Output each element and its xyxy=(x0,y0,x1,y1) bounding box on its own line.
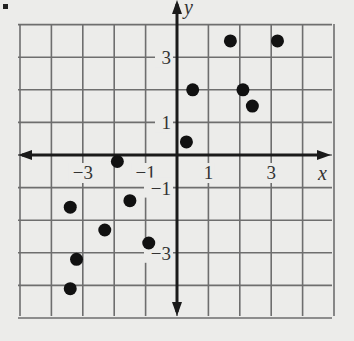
data-point xyxy=(271,34,284,47)
y-axis-label: y xyxy=(182,0,193,19)
y-tick-label: 1 xyxy=(162,112,172,133)
data-point xyxy=(236,83,249,96)
x-axis-label: x xyxy=(317,162,327,184)
data-point xyxy=(186,83,199,96)
x-tick-label: 1 xyxy=(204,162,214,183)
x-tick-label: −3 xyxy=(73,162,93,183)
y-tick-label: 3 xyxy=(162,47,172,68)
x-tick-label: 3 xyxy=(266,162,276,183)
scatter-plot: −3−11331−1−3 x y xyxy=(0,0,354,341)
data-point xyxy=(64,282,77,295)
data-point xyxy=(224,34,237,47)
data-point xyxy=(123,194,136,207)
data-point xyxy=(98,223,111,236)
data-point xyxy=(180,135,193,148)
data-point xyxy=(142,237,155,250)
data-point xyxy=(64,201,77,214)
data-point xyxy=(111,155,124,168)
data-point xyxy=(246,100,259,113)
data-point xyxy=(70,253,83,266)
y-tick-label: −1 xyxy=(151,178,171,199)
corner-mark xyxy=(3,4,8,9)
